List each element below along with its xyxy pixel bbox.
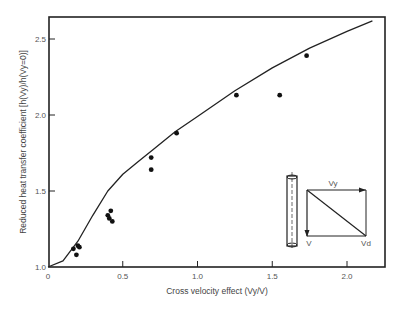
data-point	[149, 167, 154, 172]
data-point	[108, 208, 113, 213]
y-tick-label: 1.0	[35, 263, 47, 272]
theory-curve	[48, 21, 372, 267]
v-label: V	[306, 239, 312, 248]
vd-label: Vd	[361, 239, 371, 248]
data-point	[304, 53, 309, 58]
x-tick-label: 2.0	[341, 272, 353, 281]
data-point	[71, 246, 76, 251]
x-axis-label: Cross velocity effect (Vy/V)	[166, 286, 268, 296]
x-tick-label: 1.0	[192, 272, 204, 281]
data-point	[234, 93, 239, 98]
y-tick-label: 1.5	[35, 187, 47, 196]
velocity-vectors	[305, 188, 367, 238]
y-axis-label: Reduced heat transfer coefficient [h(Vy)…	[18, 50, 28, 234]
y-axis-ticks: 1.01.52.02.5	[35, 35, 55, 272]
chart: 00.51.01.52.0 1.01.52.02.5 Cross velocit…	[0, 0, 404, 311]
data-point	[174, 131, 179, 136]
y-tick-label: 2.5	[35, 35, 47, 44]
y-tick-label: 2.0	[35, 111, 47, 120]
cylinder-icon	[287, 172, 297, 250]
inset-vector-diagram: Vy V Vd	[287, 172, 371, 250]
x-tick-label: 1.5	[267, 272, 279, 281]
x-tick-label: 0	[46, 272, 51, 281]
plot-frame	[49, 17, 385, 267]
x-axis-ticks: 00.51.01.52.0	[46, 261, 353, 281]
vy-label: Vy	[328, 179, 337, 188]
data-point	[74, 252, 79, 257]
data-points	[71, 53, 309, 257]
data-point	[110, 219, 115, 224]
x-tick-label: 0.5	[117, 272, 129, 281]
data-point	[277, 93, 282, 98]
data-point	[77, 245, 82, 250]
data-point	[149, 155, 154, 160]
